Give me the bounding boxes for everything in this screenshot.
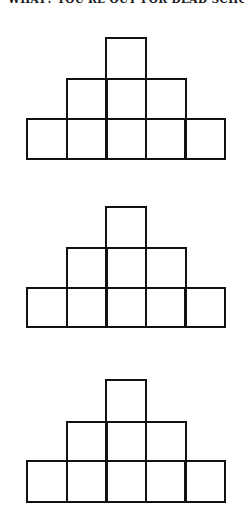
pyramid-cell <box>105 379 147 423</box>
pyramid-cell <box>66 460 108 503</box>
pyramid-cell <box>145 460 187 503</box>
pyramid-cell <box>184 460 226 503</box>
pyramid-cell <box>184 118 226 160</box>
pyramid-cell <box>145 421 187 462</box>
pyramid-cell <box>105 421 147 462</box>
pyramid-cell <box>145 247 187 289</box>
pyramid-cell <box>105 247 147 289</box>
pyramid-cell <box>66 287 108 328</box>
clipped-header-text: WHAT? YOU'RE OUT FOR DEAD SCHOOL <box>8 0 244 5</box>
pyramid-cell <box>66 118 108 160</box>
pyramid-cell <box>26 118 68 160</box>
pyramid-cell <box>105 37 147 80</box>
pyramid-cell <box>145 78 187 120</box>
pyramid-cell <box>105 118 147 160</box>
pyramid-cell <box>145 118 187 160</box>
pyramid-cell <box>66 247 108 289</box>
pyramid-cell <box>184 287 226 328</box>
pyramid-cell <box>66 421 108 462</box>
pyramid-cell <box>145 287 187 328</box>
pyramid-cell <box>105 287 147 328</box>
pyramid-cell <box>26 460 68 503</box>
pyramid-cell <box>26 287 68 328</box>
pyramid-cell <box>105 460 147 503</box>
pyramid-cell <box>66 78 108 120</box>
pyramid-cell <box>105 78 147 120</box>
pyramid-cell <box>105 206 147 249</box>
